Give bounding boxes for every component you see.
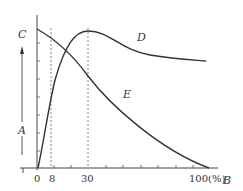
curve-label-d: D (136, 31, 146, 44)
concentration-diagram: C A D E B 0 8 30 100(%) (0, 0, 243, 191)
y-label-a: A (17, 124, 26, 137)
x-tick-30: 30 (81, 173, 94, 184)
y-label-c: C (18, 28, 27, 41)
x-tick-8: 8 (49, 173, 55, 184)
curve-label-e: E (122, 88, 131, 101)
curve-d (38, 31, 206, 168)
up-arrow-icon (20, 46, 24, 54)
x-tick-100: 100(%) (189, 173, 225, 184)
x-tick-0: 0 (34, 173, 40, 184)
